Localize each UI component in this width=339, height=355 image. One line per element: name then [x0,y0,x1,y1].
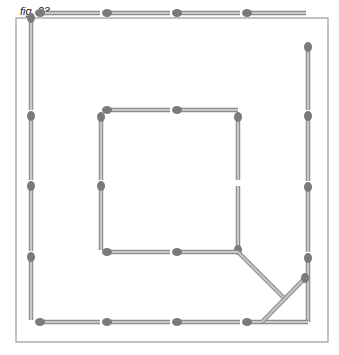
matchstick [35,9,100,17]
matchstick [304,42,312,110]
match-head-icon [102,9,112,17]
matchstick [234,112,242,180]
match-head-icon [304,111,312,121]
matchstick [97,181,105,250]
matchstick [304,253,312,322]
match-head-icon [102,106,112,114]
match-head-icon [242,9,252,17]
match-head-icon [27,13,35,23]
matchstick [102,318,170,326]
match-head-icon [102,318,112,326]
matchstick [97,112,105,180]
match-head-icon [102,248,112,256]
match-head-icon [234,112,242,122]
match-head-icon [304,42,312,52]
matchstick [172,9,240,17]
matchstick [27,13,35,110]
match-head-icon [304,253,312,263]
matchstick [27,181,35,251]
matchstick [304,111,312,181]
match-head-icon [35,9,45,17]
match-head-icon [172,106,182,114]
matchstick-diagram [0,0,339,355]
match-head-icon [27,181,35,191]
match-head-icon [172,9,182,17]
matchstick [102,106,170,114]
match-head-icon [172,248,182,256]
match-head-icon [35,318,45,326]
matchstick [27,252,35,320]
match-head-icon [27,252,35,262]
match-head-icon [301,273,309,283]
match-head-icon [172,318,182,326]
match-head-icon [97,112,105,122]
match-head-icon [242,318,252,326]
match-head-icon [27,111,35,121]
matchstick [172,318,240,326]
match-head-icon [304,182,312,192]
matchstick [27,111,35,180]
matchstick [242,9,306,17]
match-head-icon [97,181,105,191]
matchstick [172,248,238,256]
matchstick [102,9,170,17]
matchstick [35,318,100,326]
matchstick [234,186,242,255]
matchstick [242,318,308,326]
matchstick [304,182,312,252]
matchstick [102,248,170,256]
matchstick [172,106,238,114]
matchsticks [27,9,312,326]
matchstick [238,252,285,299]
